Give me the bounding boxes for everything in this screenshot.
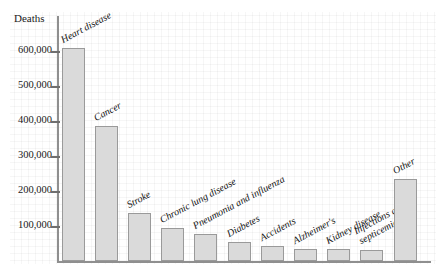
y-axis-tick-label: 600,000 xyxy=(18,44,52,55)
y-axis-tick-label: 400,000 xyxy=(18,114,52,125)
y-axis-tick-mark xyxy=(51,121,60,123)
y-axis-tick-label: 100,000 xyxy=(18,219,52,230)
right-margin xyxy=(436,0,446,275)
y-axis-tick-label: 200,000 xyxy=(18,184,52,195)
bar xyxy=(95,126,118,261)
bar-label: Stroke xyxy=(125,189,152,211)
y-axis-tick-mark xyxy=(51,86,60,88)
y-axis-tick-mark xyxy=(51,156,60,158)
bar-label: Cancer xyxy=(92,100,123,124)
plot-area: Deaths 600,000500,000400,000300,000200,0… xyxy=(0,0,446,275)
bar xyxy=(394,179,417,261)
bottom-margin xyxy=(0,264,446,275)
bar xyxy=(261,246,284,261)
y-axis-tick-label: 500,000 xyxy=(18,79,52,90)
bar xyxy=(194,234,217,261)
y-axis-tick-mark xyxy=(51,226,60,228)
y-axis-title: Deaths xyxy=(14,12,45,24)
bar xyxy=(62,48,85,262)
x-axis-line xyxy=(57,261,431,263)
left-margin xyxy=(0,0,10,275)
bar-label: Other xyxy=(390,155,416,176)
bar xyxy=(294,249,317,261)
bar xyxy=(327,249,350,261)
top-margin xyxy=(0,0,446,12)
bar xyxy=(228,242,251,261)
y-axis-tick-mark xyxy=(51,51,60,53)
bar-label: Diabetes xyxy=(224,212,261,238)
bar xyxy=(128,213,151,261)
bar xyxy=(360,250,383,261)
y-axis-tick-label: 300,000 xyxy=(18,149,52,160)
bar-chart-figure: Deaths 600,000500,000400,000300,000200,0… xyxy=(0,0,446,275)
bar-label: Heart disease xyxy=(58,9,112,45)
bar-label: Accidents xyxy=(258,215,297,243)
bar xyxy=(161,228,184,261)
y-axis-tick-mark xyxy=(51,191,60,193)
